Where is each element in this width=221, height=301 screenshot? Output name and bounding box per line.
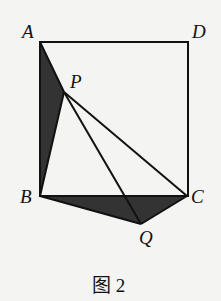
label-a: A [20, 21, 34, 42]
segment-pc [64, 92, 187, 196]
square-abcd [40, 42, 188, 196]
label-d: D [191, 21, 206, 42]
geometry-figure: A D P B C Q 图 2 [0, 0, 221, 301]
figure-caption: 图 2 [92, 275, 125, 296]
label-q: Q [139, 227, 153, 248]
label-b: B [20, 186, 32, 207]
label-p: P [69, 71, 82, 92]
label-c: C [191, 186, 204, 207]
